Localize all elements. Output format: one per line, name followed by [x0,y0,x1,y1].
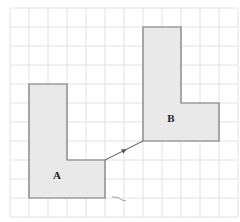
shape-b-label: B [167,112,175,124]
translation-diagram: A B [0,0,240,222]
shape-a-label: A [53,169,61,181]
